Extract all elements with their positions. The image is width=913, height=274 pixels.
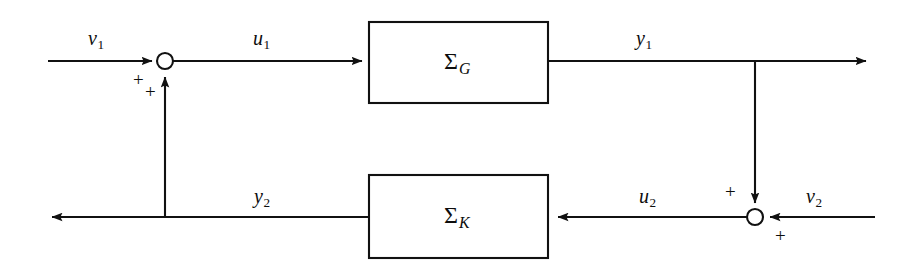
plant-block-label-sub: G — [458, 60, 470, 77]
controller-block-label: ΣK — [444, 203, 470, 231]
controller-block-label-sigma: Σ — [444, 202, 458, 228]
sign-bottom-right-horizontal: + — [775, 226, 786, 245]
signal-label-y1: y1 — [636, 28, 652, 51]
signal-label-v2-base: v — [806, 185, 815, 207]
signal-label-y2: y2 — [254, 186, 270, 209]
plant-block-label: ΣG — [444, 49, 470, 77]
signal-label-y2-sub: 2 — [263, 195, 270, 210]
signal-label-v1-sub: 1 — [97, 37, 104, 52]
signal-label-u1-sub: 1 — [263, 37, 270, 52]
signal-label-y2-base: y — [254, 185, 263, 207]
sign-top-left-vertical: + — [145, 82, 156, 101]
signal-label-v1: v1 — [88, 28, 104, 51]
sign-bottom-right-vertical: + — [725, 182, 736, 201]
signal-label-v2-sub: 2 — [815, 195, 822, 210]
summing-junction-bottom-right — [747, 209, 763, 225]
sign-top-left-horizontal: + — [133, 70, 144, 89]
summing-junction-top-left — [157, 53, 173, 69]
signal-label-v2: v2 — [806, 186, 822, 209]
signal-label-u1-base: u — [253, 27, 263, 49]
plant-block-label-sigma: Σ — [444, 48, 458, 74]
signal-label-v1-base: v — [88, 27, 97, 49]
signal-label-u2: u2 — [639, 186, 656, 209]
controller-block-label-sub: K — [458, 214, 470, 231]
signal-label-u2-base: u — [639, 185, 649, 207]
signal-label-y1-base: y — [636, 27, 645, 49]
signal-label-u2-sub: 2 — [649, 195, 656, 210]
block-diagram-figure: v1 u1 y1 y2 u2 v2 + + + + ΣG ΣK — [0, 0, 913, 274]
signal-label-u1: u1 — [253, 28, 270, 51]
signal-label-y1-sub: 1 — [645, 37, 652, 52]
